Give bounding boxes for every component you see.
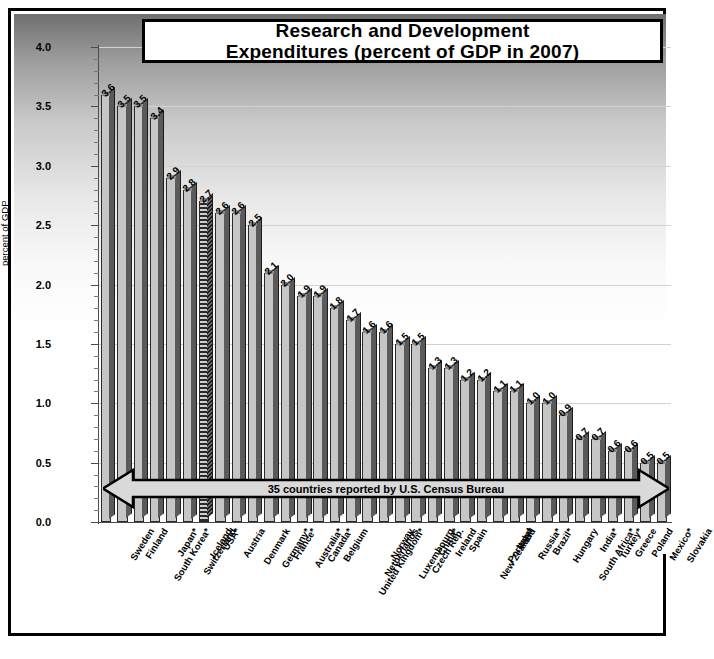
y-tick-major [91, 403, 99, 404]
bar [117, 106, 127, 522]
y-tick-minor [94, 249, 99, 250]
y-tick-label: 1.5 [0, 338, 51, 350]
y-tick-minor [94, 273, 99, 274]
y-tick-major [91, 285, 99, 286]
y-tick-minor [94, 118, 99, 119]
y-tick-major [91, 225, 99, 226]
y-tick-minor [94, 178, 99, 179]
x-axis-line [98, 522, 672, 523]
y-tick-minor [94, 201, 99, 202]
y-tick-minor [94, 475, 99, 476]
y-tick-minor [94, 498, 99, 499]
y-axis-title: percent of GDP [0, 201, 10, 266]
y-tick-minor [94, 380, 99, 381]
chart-title-line-1: Research and Development [276, 20, 530, 41]
y-tick-minor [94, 308, 99, 309]
y-tick-minor [94, 237, 99, 238]
y-tick-minor [94, 59, 99, 60]
bar-side-face [158, 111, 164, 518]
y-tick-minor [94, 261, 99, 262]
chart-frame: Research and Development Expenditures (p… [8, 8, 666, 636]
y-tick-minor [94, 427, 99, 428]
y-tick-minor [94, 320, 99, 321]
y-tick-minor [94, 332, 99, 333]
bar [101, 95, 111, 523]
y-tick-minor [94, 415, 99, 416]
y-tick-major [91, 344, 99, 345]
y-tick-label: 1.0 [0, 397, 51, 409]
y-tick-major [91, 463, 99, 464]
chart-title: Research and Development Expenditures (p… [142, 19, 663, 63]
y-tick-major [91, 522, 99, 523]
bar-side-face [109, 87, 115, 518]
y-tick-minor [94, 213, 99, 214]
y-tick-major [91, 166, 99, 167]
y-tick-minor [94, 190, 99, 191]
y-tick-label: 4.0 [0, 41, 51, 53]
y-tick-minor [94, 451, 99, 452]
x-tick-label: Austria [241, 526, 268, 560]
annotation-arrow: 35 countries reported by U.S. Census Bur… [103, 466, 669, 511]
y-tick-minor [94, 510, 99, 511]
y-tick-minor [94, 154, 99, 155]
y-tick-minor [94, 356, 99, 357]
bar [150, 118, 160, 522]
y-tick-minor [94, 296, 99, 297]
y-tick-minor [94, 130, 99, 131]
y-tick-label: 0.0 [0, 516, 51, 528]
y-tick-label: 2.0 [0, 279, 51, 291]
y-tick-minor [94, 391, 99, 392]
y-tick-minor [94, 83, 99, 84]
y-tick-minor [94, 368, 99, 369]
y-tick-label: 0.5 [0, 457, 51, 469]
y-tick-minor [94, 486, 99, 487]
y-tick-minor [94, 95, 99, 96]
y-tick-minor [94, 71, 99, 72]
bar [134, 106, 144, 522]
y-tick-minor [94, 142, 99, 143]
y-tick-label: 3.5 [0, 100, 51, 112]
y-tick-major [91, 106, 99, 107]
bar-side-face [142, 99, 148, 518]
chart-title-line-2: Expenditures (percent of GDP in 2007) [226, 41, 579, 62]
y-tick-label: 3.0 [0, 160, 51, 172]
y-tick-minor [94, 439, 99, 440]
y-tick-major [91, 47, 99, 48]
double-arrow-icon [103, 466, 669, 511]
bar-side-face [126, 99, 132, 518]
x-axis-labels: SwedenFinlandSouth Korea*Japan*Switzerla… [99, 526, 671, 646]
y-tick-label: 2.5 [0, 219, 51, 231]
